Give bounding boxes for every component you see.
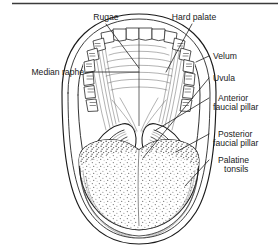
tooth-incisor-right [139, 28, 152, 40]
tooth-lateral-left [113, 29, 126, 41]
oral-cavity-figure: Rugae Hard palate Median raphe Velum Uvu… [0, 0, 278, 248]
label-hard-palate: Hard palate [172, 12, 217, 22]
label-uvula: Uvula [213, 73, 235, 83]
tongue-group [79, 140, 199, 238]
tooth-incisor-left [126, 28, 139, 40]
label-palatine-tonsils-line2: tonsils [224, 164, 248, 174]
leader-velum [196, 56, 209, 62]
tooth-lateral-right [152, 29, 165, 41]
label-posterior-faucial-pillar-line2: faucial pillar [213, 138, 259, 148]
label-rugae: Rugae [93, 12, 119, 22]
label-anterior-faucial-pillar-line2: faucial pillar [213, 102, 259, 112]
label-median-raphe: Median raphe [31, 67, 84, 77]
figure-canvas: Rugae Hard palate Median raphe Velum Uvu… [0, 0, 278, 248]
label-velum: Velum [213, 51, 237, 61]
